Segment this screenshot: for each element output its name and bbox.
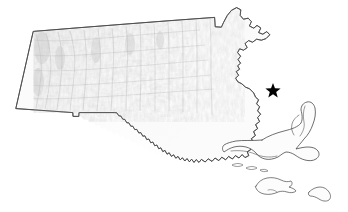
massachusetts-map-svg: [0, 0, 348, 212]
map-canvas: Massachusetts: [0, 0, 348, 212]
